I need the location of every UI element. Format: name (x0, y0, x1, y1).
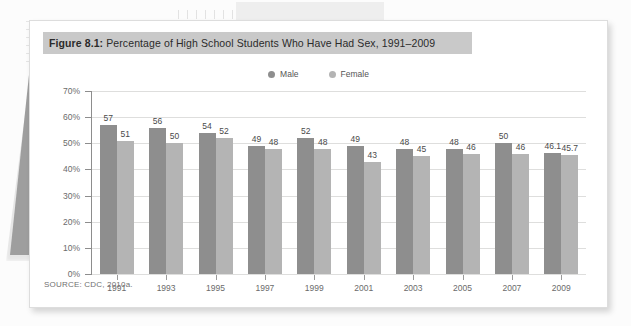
bar-value-label: 48 (269, 137, 278, 147)
bar-female-2009 (561, 155, 578, 274)
bar-value-label: 45 (417, 144, 426, 154)
y-axis-tick-label: 70% (30, 86, 80, 96)
y-axis-tick-label: 50% (30, 138, 80, 148)
bar-male-2007 (495, 143, 512, 274)
y-axis-tick-label: 40% (30, 164, 80, 174)
bar-value-label: 49 (252, 134, 261, 144)
x-axis-tick-label: 2007 (502, 283, 521, 293)
bar-value-label: 52 (301, 126, 310, 136)
x-axis-tick (314, 275, 315, 280)
source-note: SOURCE: CDC, 2010a. (44, 280, 133, 289)
x-axis-tick (463, 275, 464, 280)
bar-male-2009 (544, 153, 561, 274)
x-axis-tick (364, 275, 365, 280)
bar-female-1991 (117, 141, 134, 274)
chart-plot-area: 57515650545249485248494348454846504646.1… (92, 91, 586, 274)
bar-female-1997 (265, 149, 282, 274)
bar-male-1995 (199, 133, 216, 274)
x-axis-tick (166, 275, 167, 280)
y-axis-tick-label: 20% (30, 217, 80, 227)
bar-value-label: 52 (219, 126, 228, 136)
bar-value-label: 46.1 (545, 141, 562, 151)
bar-male-1997 (248, 146, 265, 274)
bar-value-label: 57 (103, 113, 112, 123)
y-axis-tick (85, 117, 91, 118)
bar-male-2005 (446, 149, 463, 274)
x-axis-tick (413, 275, 414, 280)
x-axis-tick-label: 2003 (404, 283, 423, 293)
bar-value-label: 48 (318, 137, 327, 147)
bar-value-label: 51 (120, 129, 129, 139)
y-axis-tick (85, 222, 91, 223)
bar-female-1999 (314, 149, 331, 274)
bar-male-1993 (149, 128, 166, 274)
x-axis-tick-label: 1993 (157, 283, 176, 293)
bar-female-2003 (413, 156, 430, 274)
bar-female-2005 (463, 154, 480, 274)
bar-value-label: 48 (449, 137, 458, 147)
x-axis-tick-label: 2001 (354, 283, 373, 293)
bar-value-label: 45.7 (562, 143, 579, 153)
bar-value-label: 49 (350, 134, 359, 144)
bar-female-1993 (166, 143, 183, 274)
bar-female-1995 (216, 138, 233, 274)
scan-artifact-hairlines (178, 10, 240, 19)
bar-value-label: 48 (400, 137, 409, 147)
y-axis-tick-label: 0% (30, 269, 80, 279)
x-axis-tick-label: 1999 (305, 283, 324, 293)
bar-male-1999 (297, 138, 314, 274)
gridline (92, 91, 586, 92)
x-axis-tick-label: 1997 (255, 283, 274, 293)
y-axis-tick (85, 169, 91, 170)
x-axis-tick-label: 1995 (206, 283, 225, 293)
figure-card: Figure 8.1: Percentage of High School St… (29, 20, 608, 308)
y-axis-tick-label: 60% (30, 112, 80, 122)
bar-value-label: 46 (516, 142, 525, 152)
bar-female-2007 (512, 154, 529, 274)
y-axis-tick (85, 274, 91, 275)
y-axis-tick (85, 196, 91, 197)
x-axis-tick (265, 275, 266, 280)
bar-male-1991 (100, 125, 117, 274)
bar-value-label: 46 (466, 142, 475, 152)
bar-value-label: 54 (202, 121, 211, 131)
x-axis-tick-label: 2009 (552, 283, 571, 293)
bar-female-2001 (364, 162, 381, 274)
x-axis-tick (512, 275, 513, 280)
bar-value-label: 43 (367, 150, 376, 160)
chart-plot-wrapper: 57515650545249485248494348454846504646.1… (30, 21, 607, 307)
bar-value-label: 56 (153, 116, 162, 126)
bar-value-label: 50 (499, 131, 508, 141)
bar-male-2001 (347, 146, 364, 274)
y-axis-tick (85, 143, 91, 144)
x-axis-tick-label: 2005 (453, 283, 472, 293)
bar-value-label: 50 (170, 131, 179, 141)
x-axis-tick (561, 275, 562, 280)
y-axis-tick (85, 91, 91, 92)
bar-male-2003 (396, 149, 413, 274)
y-axis-tick-label: 10% (30, 243, 80, 253)
x-axis-tick (216, 275, 217, 280)
y-axis-tick-label: 30% (30, 191, 80, 201)
y-axis-tick (85, 248, 91, 249)
gridline (92, 117, 586, 118)
